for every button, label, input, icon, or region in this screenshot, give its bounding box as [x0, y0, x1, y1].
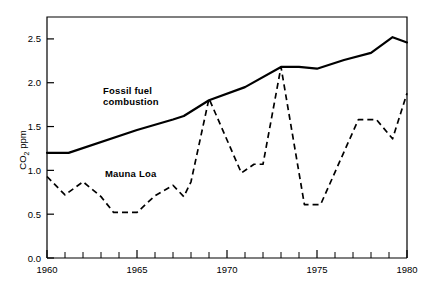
y-tick-label: 2.0: [28, 77, 41, 88]
y-tick-label: 2.5: [28, 33, 41, 44]
x-tick-label: 1960: [36, 264, 57, 275]
y-axis-major-ticks: [47, 39, 54, 258]
chart-figure: 19601965197019751980 0.00.51.01.52.02.5 …: [0, 0, 427, 287]
co2-line-chart: 19601965197019751980 0.00.51.01.52.02.5 …: [0, 0, 427, 287]
series-mauna-loa-line: [47, 67, 407, 212]
y-tick-label: 0.0: [28, 253, 41, 264]
series-fossil-fuel-combustion-line: [47, 37, 407, 153]
y-tick-label: 0.5: [28, 209, 41, 220]
annotation-fossil-fuel-line1: Fossil fuel: [103, 85, 152, 96]
plot-frame: [47, 17, 407, 258]
x-tick-label: 1970: [216, 264, 237, 275]
annotation-fossil-fuel-line2: combustion: [103, 96, 159, 107]
annotation-fossil-fuel: Fossil fuel combustion: [103, 85, 159, 107]
y-tick-label: 1.5: [28, 121, 41, 132]
y-tick-label: 1.0: [28, 165, 41, 176]
annotation-mauna-loa: Mauna Loa: [105, 168, 157, 179]
y-axis-title: CO2 ppm: [17, 130, 30, 169]
x-tick-label: 1975: [306, 264, 327, 275]
x-tick-label: 1965: [126, 264, 147, 275]
x-tick-label: 1980: [396, 264, 417, 275]
x-axis-tick-labels: 19601965197019751980: [36, 264, 417, 275]
y-axis-tick-labels: 0.00.51.01.52.02.5: [28, 33, 41, 263]
